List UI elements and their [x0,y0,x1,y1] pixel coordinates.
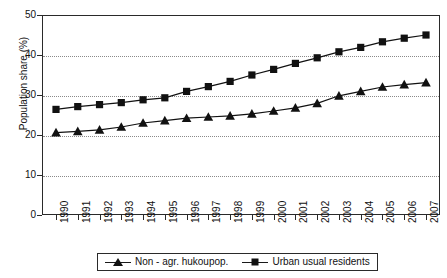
x-axis-tick-label: 2007 [430,201,440,223]
x-axis-tick-label: 2005 [386,201,396,223]
x-axis-tick-mark [187,215,188,220]
x-axis-tick-label: 1993 [125,201,135,223]
x-axis-tick-label: 2001 [299,201,309,223]
gridline [43,96,439,97]
y-axis-tick-mark [37,175,42,176]
x-axis-tick-mark [317,215,318,220]
x-axis-tick-mark [208,215,209,220]
y-axis-tick-mark [37,215,42,216]
x-axis-tick-mark [361,215,362,220]
x-axis-tick-mark [295,215,296,220]
x-axis-tick-label: 1997 [212,201,222,223]
x-axis-tick-mark [78,215,79,220]
legend-entry-urban-usual-residents: Urban usual residents [242,257,369,267]
x-axis-tick-label: 1991 [82,201,92,223]
x-axis-tick-label: 1999 [256,201,266,223]
x-axis-tick-label: 2002 [321,201,331,223]
x-axis-tick-mark [274,215,275,220]
x-axis-tick-mark [339,215,340,220]
gridline [43,56,439,57]
x-axis-tick-mark [230,215,231,220]
y-axis-tick-label: 10 [8,170,36,180]
x-axis-tick-label: 1994 [147,201,157,223]
legend-label-urban-usual-residents: Urban usual residents [272,257,369,267]
legend-entry-non-agr-hukoupop: Non - agr. hukoupop. [105,257,228,267]
x-axis-tick-mark [143,215,144,220]
x-axis-tick-label: 2000 [278,201,288,223]
x-axis-tick-label: 1995 [169,201,179,223]
x-axis-tick-mark [404,215,405,220]
y-axis-tick-mark [37,95,42,96]
x-axis-tick-label: 2006 [408,201,418,223]
y-axis-tick-label: 30 [8,90,36,100]
square-marker-icon [242,258,268,267]
x-axis-tick-mark [100,215,101,220]
x-axis-tick-mark [165,215,166,220]
x-axis-tick-label: 2004 [365,201,375,223]
y-axis-tick-mark [37,55,42,56]
triangle-marker-icon [105,258,131,267]
y-axis-tick-label: 20 [8,130,36,140]
x-axis-tick-label: 1992 [104,201,114,223]
chart-container: Population share (%) 01020304050 1990199… [0,0,447,278]
legend-label-non-agr-hukoupop: Non - agr. hukoupop. [135,257,228,267]
x-axis-tick-mark [252,215,253,220]
y-axis-tick-label: 40 [8,50,36,60]
y-axis-tick-mark [37,15,42,16]
gridline [43,176,439,177]
x-axis-tick-label: 1996 [191,201,201,223]
x-axis-tick-mark [121,215,122,220]
plot-area [42,15,440,215]
x-axis-tick-label: 2003 [343,201,353,223]
x-axis-tick-mark [426,215,427,220]
y-axis-tick-label: 0 [8,210,36,220]
chart-legend: Non - agr. hukoupop. Urban usual residen… [97,253,378,271]
gridline [43,136,439,137]
x-axis-tick-label: 1990 [60,201,70,223]
x-axis-tick-label: 1998 [234,201,244,223]
x-axis-tick-mark [56,215,57,220]
y-axis-tick-mark [37,135,42,136]
y-axis-tick-label: 50 [8,10,36,20]
x-axis-tick-mark [382,215,383,220]
